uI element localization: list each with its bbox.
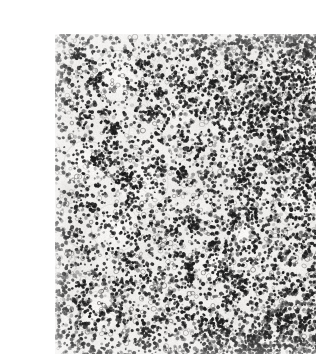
screenshot-canvas (0, 0, 316, 354)
micrograph-image (55, 34, 316, 354)
histopathology-micrograph (55, 34, 316, 354)
